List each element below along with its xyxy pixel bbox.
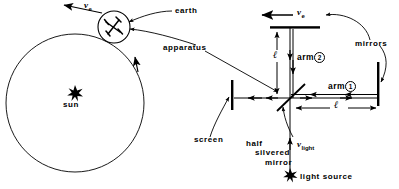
right-mirror (377, 62, 379, 106)
hsm-line-3: mirror (265, 158, 292, 167)
light-source-label: light source (300, 173, 353, 181)
mirrors-label: mirrors (355, 40, 387, 48)
earth-label: earth (175, 7, 198, 15)
earth-velocity-label: ve (84, 1, 92, 12)
apparatus-label: apparatus (163, 44, 207, 52)
diagram-vector-layer (0, 0, 399, 189)
half-silvered-mirror-label: half silvered mirror (246, 139, 292, 167)
screen-leader-line (210, 97, 229, 137)
vertical-length-label: ℓ (273, 50, 277, 61)
figure-canvas: ve earth apparatus sun ve mirrors arm2 a… (0, 0, 399, 189)
apparatus-velocity-label: ve (297, 8, 305, 19)
arm2-number-badge: 2 (314, 52, 325, 63)
half-silvered-mirror-leader-line (283, 107, 293, 137)
horizontal-length-label: ℓ (334, 100, 338, 111)
top-mirror (270, 26, 320, 28)
sun-label: sun (63, 101, 79, 109)
arm2-label: arm2 (297, 52, 325, 63)
hsm-line-1: half (246, 139, 292, 148)
light-source-star-icon (283, 168, 297, 183)
apparatus-to-interferometer-line (205, 51, 278, 92)
light-velocity-label: vlight (297, 140, 314, 151)
mirrors-leader-top (326, 14, 370, 40)
earth-velocity-arrow-left (64, 5, 102, 13)
mirrors-leader-right (380, 46, 386, 82)
earth-leader-line (129, 11, 172, 22)
screen-bar (231, 80, 233, 110)
hsm-line-2: silvered (255, 148, 292, 157)
arm1-number-badge: 1 (345, 81, 356, 92)
arm1-label: arm1 (328, 81, 356, 92)
screen-label: screen (194, 136, 223, 144)
beam-direction-arrows (248, 50, 355, 150)
